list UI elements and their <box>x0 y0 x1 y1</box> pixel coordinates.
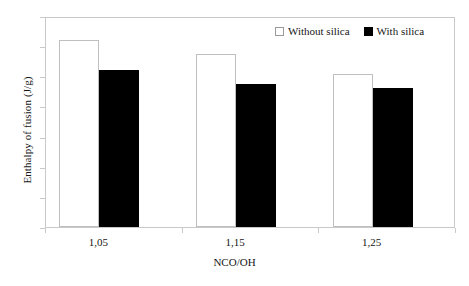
plot-area <box>45 17 455 228</box>
y-axis-title: Enthalpy of fusion (J/g) <box>21 30 33 230</box>
legend-label: With silica <box>377 25 425 37</box>
bar-without-silica-1-05 <box>59 40 99 227</box>
chart-legend: Without silicaWith silica <box>275 25 424 37</box>
x-axis-tick-label: 1,05 <box>58 236 138 248</box>
x-axis-tick-label: 1,25 <box>332 236 412 248</box>
bar-without-silica-1-15 <box>196 54 236 227</box>
x-axis-title: NCO/OH <box>0 256 469 268</box>
bar-chart-figure: Enthalpy of fusion (J/g) 05101520253035 … <box>0 0 469 286</box>
x-axis-tick-mark <box>318 228 319 233</box>
bar-with-silica-1-25 <box>373 88 413 227</box>
x-axis-tick-label: 1,15 <box>195 236 275 248</box>
legend-entry-without-silica: Without silica <box>275 25 350 37</box>
legend-label: Without silica <box>288 25 350 37</box>
x-axis-tick-mark <box>455 228 456 233</box>
bar-with-silica-1-05 <box>99 70 139 227</box>
legend-entry-with-silica: With silica <box>364 25 425 37</box>
bar-with-silica-1-15 <box>236 84 276 227</box>
x-axis-tick-mark <box>182 228 183 233</box>
bar-without-silica-1-25 <box>333 74 373 227</box>
open-square-marker <box>275 27 284 36</box>
x-axis-tick-mark <box>45 228 46 233</box>
filled-square-marker <box>364 27 373 36</box>
